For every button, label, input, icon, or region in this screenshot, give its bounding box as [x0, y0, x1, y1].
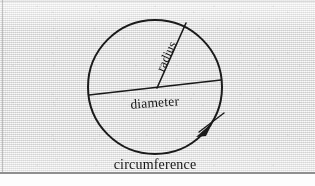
- scanned-diagram-page: radius diameter circumference: [0, 0, 315, 186]
- circle-diagram: radius diameter circumference: [0, 0, 315, 186]
- diameter-label: diameter: [130, 93, 180, 111]
- circumference-label: circumference: [114, 157, 197, 172]
- radius-label: radius: [153, 39, 179, 74]
- circumference-tick: [199, 113, 224, 132]
- diameter-line: [89, 80, 221, 95]
